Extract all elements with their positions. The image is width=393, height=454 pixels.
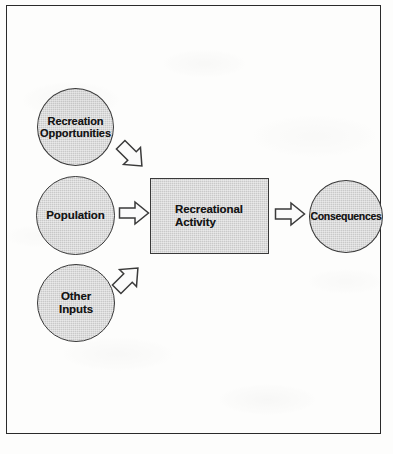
node-population: Population [36, 176, 115, 255]
scanned-page: Recreation Opportunities Population Othe… [0, 0, 393, 454]
node-consequences: Consequences [309, 180, 383, 253]
node-recreational-activity-label: Recreational Activity [151, 203, 243, 229]
node-other-inputs-label: Other Inputs [59, 290, 93, 316]
arrow-up-right-icon [108, 258, 148, 298]
node-consequences-label: Consequences [310, 211, 381, 223]
node-recreational-activity: Recreational Activity [150, 178, 269, 254]
node-recreation-opportunities: Recreation Opportunities [37, 88, 114, 166]
flow-diagram: Recreation Opportunities Population Othe… [0, 0, 393, 454]
arrow-right-icon [118, 200, 150, 226]
node-other-inputs: Other Inputs [37, 264, 115, 342]
arrow-down-right-icon [112, 136, 152, 176]
figure-caption-clip: Figure 1.1.THE COMPONENTS OF A MODEL OF … [0, 437, 393, 454]
arrow-right-icon [274, 201, 306, 227]
node-recreation-opportunities-label: Recreation Opportunities [40, 115, 111, 140]
node-population-label: Population [46, 209, 104, 222]
